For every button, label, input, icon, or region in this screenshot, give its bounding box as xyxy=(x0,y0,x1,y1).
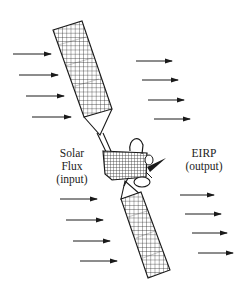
upper-solar-panel xyxy=(53,21,114,160)
solar-flux-label-line2: Flux xyxy=(50,160,94,173)
solar-flux-arrows-upper xyxy=(13,54,71,117)
satellite-body xyxy=(103,139,166,187)
solar-flux-arrows-lower xyxy=(60,199,117,261)
diagram-canvas xyxy=(0,0,247,289)
satellite-power-diagram: Solar Flux (input) EIRP (output) xyxy=(0,0,247,289)
eirp-arrows-lower xyxy=(180,195,233,253)
eirp-label: EIRP (output) xyxy=(177,147,231,173)
eirp-label-line2: (output) xyxy=(177,160,231,173)
solar-flux-label: Solar Flux (input) xyxy=(50,147,94,186)
eirp-arrows-upper xyxy=(136,61,190,119)
eirp-label-line1: EIRP xyxy=(177,147,231,160)
solar-flux-label-line1: Solar xyxy=(50,147,94,160)
lower-solar-panel xyxy=(121,178,170,278)
solar-flux-label-line3: (input) xyxy=(50,173,94,186)
